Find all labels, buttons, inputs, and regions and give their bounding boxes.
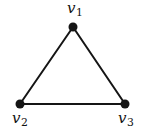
vertex-label-v2-subscript: 2 [21, 116, 28, 129]
triangle-graph-figure: v1 v2 v3 [0, 0, 145, 138]
vertex-label-v2-letter: v [12, 109, 20, 127]
vertex-dot-v1 [69, 23, 78, 32]
vertex-label-v3: v3 [118, 111, 134, 126]
vertices [16, 23, 130, 109]
vertex-dot-v3 [121, 100, 130, 109]
vertex-label-v3-subscript: 3 [127, 116, 134, 129]
vertex-dot-v2 [16, 100, 25, 109]
edge-v1-v3 [73, 27, 125, 104]
edge-v1-v2 [20, 27, 73, 104]
vertex-label-v1-letter: v [67, 0, 75, 17]
vertex-label-v1-subscript: 1 [76, 6, 83, 19]
edges [20, 27, 125, 104]
vertex-label-v3-letter: v [118, 109, 126, 127]
vertex-label-v1: v1 [67, 1, 83, 16]
vertex-label-v2: v2 [12, 111, 28, 126]
